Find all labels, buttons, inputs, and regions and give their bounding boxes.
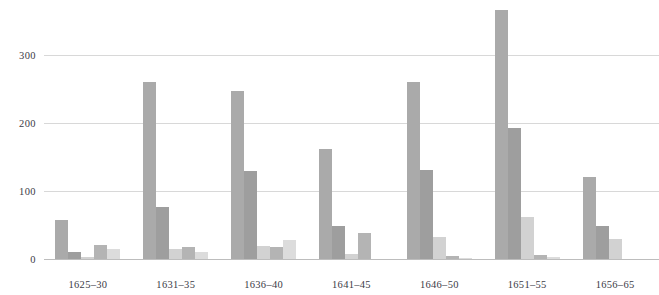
x-axis-tick-labels: 1625–301631–351636–401641–451646–501651–…	[44, 259, 659, 295]
x-tick-label: 1641–45	[332, 279, 371, 290]
y-tick-label-300: 300	[0, 49, 36, 60]
bar	[433, 237, 446, 259]
bar	[609, 239, 622, 259]
bar-group	[495, 0, 560, 259]
bar	[583, 177, 596, 259]
y-tick-label-100: 100	[0, 185, 36, 196]
bar-group	[319, 0, 384, 259]
bar-group	[143, 0, 208, 259]
y-tick-label-0: 0	[0, 254, 36, 265]
x-tick-label: 1625–30	[68, 279, 107, 290]
bar-group	[231, 0, 296, 259]
bar	[596, 226, 609, 259]
bar	[195, 252, 208, 259]
x-tick-label: 1631–35	[156, 279, 195, 290]
bar-group	[55, 0, 120, 259]
plot-area	[44, 0, 659, 259]
bar	[231, 91, 244, 259]
x-tick-label: 1636–40	[244, 279, 283, 290]
x-tick-label: 1646–50	[420, 279, 459, 290]
bar	[283, 240, 296, 259]
bar	[55, 220, 68, 259]
y-tick-label-200: 200	[0, 117, 36, 128]
bar	[407, 82, 420, 259]
bar	[420, 170, 433, 259]
bar	[244, 171, 257, 259]
y-axis-tick-labels: 0100200300	[0, 0, 36, 259]
bar	[508, 128, 521, 259]
bar-chart: 0100200300 1625–301631–351636–401641–451…	[0, 0, 659, 295]
bar	[156, 207, 169, 259]
x-tick-label: 1656–65	[596, 279, 635, 290]
bar	[107, 249, 120, 259]
bar	[143, 82, 156, 259]
bar	[68, 252, 81, 259]
x-tick-label: 1651–55	[508, 279, 547, 290]
bar	[319, 149, 332, 259]
bar	[182, 247, 195, 259]
bar	[495, 10, 508, 259]
bar-group	[583, 0, 648, 259]
bar	[257, 246, 270, 259]
bar-group	[407, 0, 472, 259]
bar	[332, 226, 345, 259]
bar	[270, 247, 283, 259]
bar	[358, 233, 371, 259]
bar	[169, 249, 182, 259]
bar	[94, 245, 107, 259]
bar	[521, 217, 534, 259]
